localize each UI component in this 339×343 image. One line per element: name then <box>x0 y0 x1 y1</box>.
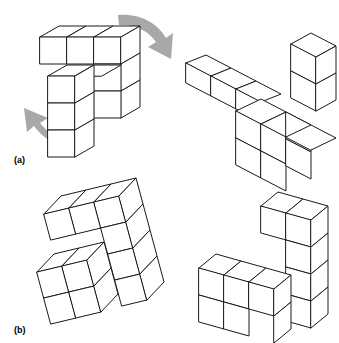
cube-face-front <box>48 130 75 157</box>
figure-canvas: (a)(b) <box>0 0 339 343</box>
cube-face-front <box>40 37 67 64</box>
cube-face-front <box>94 37 121 64</box>
panel-label-a: (a) <box>14 155 25 165</box>
panel-label-b: (b) <box>14 325 26 335</box>
mental-rotation-figure: (a)(b) <box>0 0 339 343</box>
cube-face-front <box>94 91 121 118</box>
cube-face-front <box>67 37 94 64</box>
cube-face-front <box>48 76 75 103</box>
cube-face-front <box>48 103 75 130</box>
